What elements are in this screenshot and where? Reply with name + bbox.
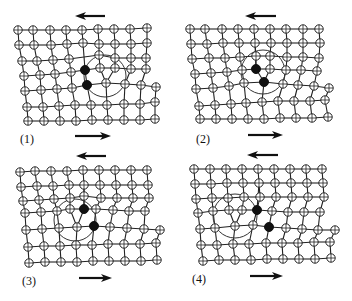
atom <box>205 54 213 62</box>
atom <box>97 194 105 202</box>
atom <box>55 224 63 232</box>
atom <box>299 39 307 47</box>
atom <box>213 241 221 249</box>
atom <box>190 165 198 173</box>
atom <box>40 242 48 250</box>
atom <box>50 195 58 203</box>
atom <box>252 52 260 60</box>
atom <box>283 39 291 47</box>
atom <box>31 167 39 175</box>
atom <box>250 25 258 33</box>
atoms <box>14 24 160 125</box>
atom <box>53 207 61 215</box>
atom <box>225 82 233 90</box>
atom <box>151 115 159 123</box>
atom <box>120 116 128 124</box>
atom <box>321 96 329 104</box>
atom <box>111 40 119 48</box>
atom <box>36 71 44 79</box>
atom <box>266 25 274 33</box>
atom <box>331 226 339 234</box>
atom <box>78 26 86 34</box>
atom <box>143 24 151 32</box>
atom <box>263 255 271 263</box>
atom <box>327 254 335 262</box>
atom <box>268 207 276 215</box>
atom <box>279 80 287 88</box>
shear-arrow-top <box>76 152 106 160</box>
atom <box>294 239 302 247</box>
atom <box>209 207 217 215</box>
atom <box>324 113 332 121</box>
atom <box>303 179 311 187</box>
atom <box>192 195 200 203</box>
atom <box>195 102 203 110</box>
atom <box>284 208 292 216</box>
atom <box>203 40 211 48</box>
dislocation-core-circle <box>54 199 96 241</box>
atom <box>292 114 300 122</box>
atom <box>199 257 207 265</box>
atom <box>191 70 199 78</box>
atom <box>272 193 280 201</box>
atom <box>234 25 242 33</box>
atom <box>24 117 32 125</box>
atom <box>271 179 279 187</box>
atom <box>151 98 159 106</box>
atom <box>208 194 216 202</box>
atom <box>57 258 65 266</box>
atom <box>223 179 231 187</box>
atom <box>240 79 248 87</box>
atom <box>282 66 290 74</box>
atom <box>249 221 257 229</box>
atom <box>156 226 164 234</box>
atom <box>310 238 318 246</box>
atom <box>325 84 333 92</box>
atom <box>126 25 134 33</box>
atom <box>242 99 250 107</box>
atom <box>80 192 88 200</box>
atom <box>282 224 290 232</box>
atom <box>80 181 88 189</box>
atom <box>219 39 227 47</box>
atom <box>68 84 76 92</box>
atom <box>196 115 204 123</box>
atom <box>47 167 55 175</box>
atom <box>221 54 229 62</box>
atom <box>121 80 129 88</box>
atom <box>286 165 294 173</box>
atom <box>282 25 290 33</box>
atom <box>223 68 231 76</box>
atom <box>129 194 137 202</box>
atom <box>128 181 136 189</box>
atom <box>66 205 74 213</box>
atom <box>311 255 319 263</box>
atom <box>25 259 33 267</box>
core-atom <box>253 206 262 215</box>
shear-arrow-bottom <box>79 274 112 282</box>
atom <box>121 257 129 265</box>
atom <box>21 209 29 217</box>
atom <box>120 100 128 108</box>
atom <box>123 224 131 232</box>
atom <box>104 240 112 248</box>
atom <box>104 116 112 124</box>
atom <box>192 85 200 93</box>
atom <box>320 193 328 201</box>
atom <box>136 116 144 124</box>
panel-label: (2) <box>196 132 210 146</box>
atom <box>89 257 97 265</box>
atom <box>270 165 278 173</box>
atom <box>66 194 74 202</box>
atom <box>29 26 37 34</box>
atom <box>238 66 246 74</box>
atom <box>228 115 236 123</box>
dislocation-figure: (1)(2)(3)(4) <box>0 0 352 301</box>
atom <box>125 207 133 215</box>
atoms <box>190 165 339 265</box>
panel-2: (2) <box>186 12 333 146</box>
atom <box>187 40 195 48</box>
atom <box>102 79 110 87</box>
atom <box>295 255 303 263</box>
atom <box>299 25 307 33</box>
